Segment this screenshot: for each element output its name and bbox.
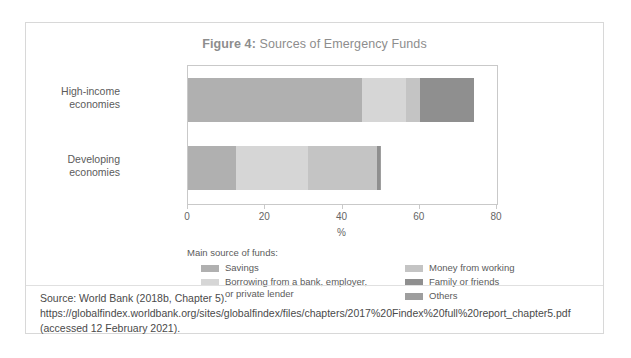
bar-segment [406, 78, 420, 122]
legend-item-label: Savings [225, 262, 259, 274]
bar-segment [188, 78, 362, 122]
x-axis-tick [187, 204, 188, 209]
plot-frame [187, 65, 498, 205]
bar-segment [380, 146, 381, 190]
x-axis-tick-label: 0 [184, 211, 190, 222]
x-axis-tick-label: 20 [259, 211, 270, 222]
figure-title: Figure 4: Sources of Emergency Funds [26, 37, 603, 51]
legend-title: Main source of funds: [187, 247, 587, 258]
figure-number: Figure 4: [202, 37, 256, 51]
category-label-high-income: High-incomeeconomies [0, 85, 120, 111]
x-axis-tick-label: 60 [413, 211, 424, 222]
bar-segment [308, 146, 378, 190]
bar-segment [420, 78, 474, 122]
legend-swatch-icon [201, 265, 219, 272]
x-axis-tick-label: 80 [490, 211, 501, 222]
x-axis-tick [419, 204, 420, 209]
table-row [188, 146, 381, 190]
x-axis-title: % [187, 227, 496, 238]
chart-plot-area: High-incomeeconomies Developingeconomies… [26, 61, 605, 246]
table-row [188, 78, 474, 122]
source-note: Source: World Bank (2018b, Chapter 5). h… [40, 291, 592, 336]
legend-item: Savings [201, 262, 367, 274]
legend-swatch-icon [405, 265, 423, 272]
divider [26, 285, 603, 286]
x-axis-tick [496, 204, 497, 209]
figure-title-text: Sources of Emergency Funds [256, 37, 427, 51]
bar-segment [236, 146, 307, 190]
figure-card: Figure 4: Sources of Emergency Funds Hig… [25, 22, 604, 334]
category-label-developing: Developingeconomies [0, 153, 120, 179]
legend-item-label: Money from working [429, 262, 515, 274]
bar-segment [362, 78, 406, 122]
x-axis-tick [342, 204, 343, 209]
x-axis-tick-label: 40 [336, 211, 347, 222]
legend-item: Money from working [405, 262, 515, 274]
bar-segment [188, 146, 236, 190]
x-axis-tick [264, 204, 265, 209]
